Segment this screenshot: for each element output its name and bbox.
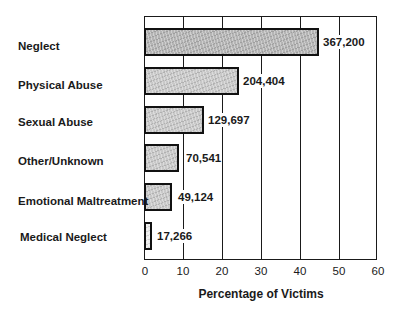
value-label-physical-abuse: 204,404 [242, 74, 286, 88]
x-tick-10: 10 [177, 265, 190, 277]
x-tick-50: 50 [333, 265, 346, 277]
bar-physical-abuse [144, 67, 239, 95]
x-axis-label: Percentage of Victims [198, 287, 323, 301]
value-label-medical-neglect: 17,266 [156, 229, 193, 243]
x-tick-40: 40 [294, 265, 307, 277]
category-label-physical-abuse: Physical Abuse [18, 78, 103, 92]
x-tick-20: 20 [216, 265, 229, 277]
gridline-50 [339, 16, 340, 260]
value-label-emotional-maltreatment: 49,124 [177, 190, 214, 204]
value-label-neglect: 367,200 [322, 35, 366, 49]
x-tick-30: 30 [255, 265, 268, 277]
bar-sexual-abuse [144, 106, 204, 134]
category-label-emotional-maltreatment: Emotional Maltreatment [18, 194, 148, 208]
bar-other-unknown [144, 144, 179, 172]
value-label-sexual-abuse: 129,697 [207, 113, 251, 127]
category-label-other-unknown: Other/Unknown [18, 154, 104, 168]
value-label-other-unknown: 70,541 [185, 151, 222, 165]
x-tick-60: 60 [372, 265, 385, 277]
x-tick-0: 0 [142, 265, 148, 277]
category-label-neglect: Neglect [18, 39, 60, 53]
category-label-sexual-abuse: Sexual Abuse [18, 115, 93, 129]
bar-medical-neglect [144, 222, 152, 250]
category-label-medical-neglect: Medical Neglect [20, 230, 107, 244]
bar-neglect [144, 28, 319, 56]
